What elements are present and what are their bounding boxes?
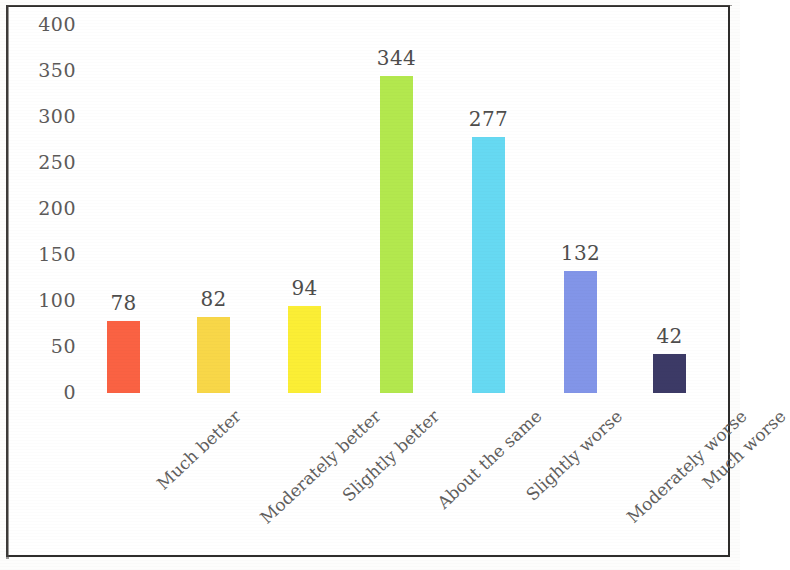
bar-value-slightly-better: 94 — [291, 276, 317, 300]
bar-rect-moderately-better — [197, 317, 230, 393]
bar-value-much-worse: 42 — [656, 324, 682, 348]
bar-value-slightly-worse: 277 — [469, 107, 508, 131]
bar-moderately-better[interactable]: 82 — [197, 317, 230, 393]
bar-rect-moderately-worse — [564, 271, 597, 393]
bar-slightly-better[interactable]: 94 — [288, 306, 321, 393]
bar-much-worse[interactable]: 42 — [653, 354, 686, 393]
x-axis-label-much-better: Much better — [153, 406, 245, 494]
bar-value-much-better: 78 — [110, 291, 136, 315]
bar-rect-about-the-same — [380, 76, 413, 393]
bar-about-the-same[interactable]: 344 — [380, 76, 413, 393]
x-axis: Much better Moderately better Slightly b… — [0, 398, 740, 548]
bar-value-about-the-same: 344 — [377, 46, 416, 70]
bar-value-moderately-worse: 132 — [561, 241, 600, 265]
bar-series: 78 82 94 344 277 132 — [0, 0, 740, 393]
bar-much-better[interactable]: 78 — [107, 321, 140, 393]
bar-value-moderately-better: 82 — [200, 287, 226, 311]
bar-rect-much-worse — [653, 354, 686, 393]
bar-slightly-worse[interactable]: 277 — [472, 137, 505, 393]
bar-rect-slightly-worse — [472, 137, 505, 393]
bar-moderately-worse[interactable]: 132 — [564, 271, 597, 393]
bar-rect-slightly-better — [288, 306, 321, 393]
bar-rect-much-better — [107, 321, 140, 393]
